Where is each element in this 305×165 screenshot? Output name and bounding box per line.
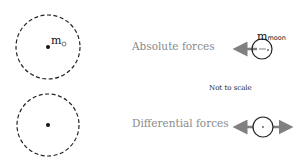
moon-mass-subscript: moon bbox=[267, 34, 285, 42]
not-to-scale-note: Not to scale bbox=[209, 84, 252, 92]
earth-symbol-icon bbox=[62, 42, 66, 46]
earth-mass-label: m bbox=[51, 34, 61, 47]
earth-center-dot-bottom bbox=[46, 123, 50, 127]
moon-mass-label: mmoon bbox=[257, 30, 286, 43]
moon-center-dot-top bbox=[267, 49, 269, 51]
tidal-forces-diagram bbox=[0, 0, 305, 165]
absolute-forces-label: Absolute forces bbox=[132, 40, 215, 52]
earth-center-dot-top bbox=[46, 45, 50, 49]
differential-forces-label: Differential forces bbox=[132, 117, 229, 129]
moon-center-dot-bottom bbox=[262, 126, 264, 128]
